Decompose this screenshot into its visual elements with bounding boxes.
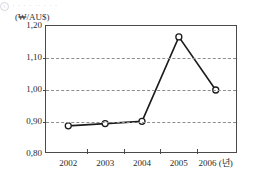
- x-axis-tick-label: 2003: [96, 158, 114, 168]
- y-axis-tick-label: 1,00: [0, 85, 42, 94]
- x-axis-tick: [160, 149, 161, 154]
- cut-off-text: · · · · ·· · · ·: [12, 1, 58, 10]
- x-axis-tick-label: 2002: [59, 158, 77, 168]
- x-axis-tick-label: 2004: [133, 158, 151, 168]
- chart-figure: 1· · · · ·· · · · (₩/AU$) 1,201,101,000,…: [0, 0, 257, 179]
- gridline-y: [46, 90, 236, 91]
- gridline-y: [46, 58, 236, 59]
- series-markers: [65, 34, 218, 129]
- data-point-marker: [176, 34, 182, 40]
- y-axis-tick: [43, 58, 46, 59]
- circled-number-icon: 1: [0, 2, 9, 11]
- y-axis-tick-label: 1,20: [0, 21, 42, 30]
- x-axis-tick: [124, 149, 125, 154]
- gridline-y: [46, 122, 236, 123]
- data-point-marker: [65, 123, 71, 129]
- series-polyline: [68, 37, 215, 126]
- plot-area: 1,201,101,000,900,8020022003200420052006…: [45, 25, 237, 153]
- y-axis-tick-label: 0,90: [0, 117, 42, 126]
- y-axis-tick-label: 0,80: [0, 149, 42, 158]
- y-axis-tick: [43, 122, 46, 123]
- x-axis-tick: [87, 149, 88, 154]
- y-axis-tick-label: 1,10: [0, 53, 42, 62]
- x-axis-tick-label: 2006 (년): [199, 158, 233, 168]
- x-axis-tick: [197, 149, 198, 154]
- cut-off-text-fragment: 1· · · · ·· · · ·: [0, 0, 257, 11]
- y-axis-tick: [43, 90, 46, 91]
- x-axis-tick-label: 2005: [170, 158, 188, 168]
